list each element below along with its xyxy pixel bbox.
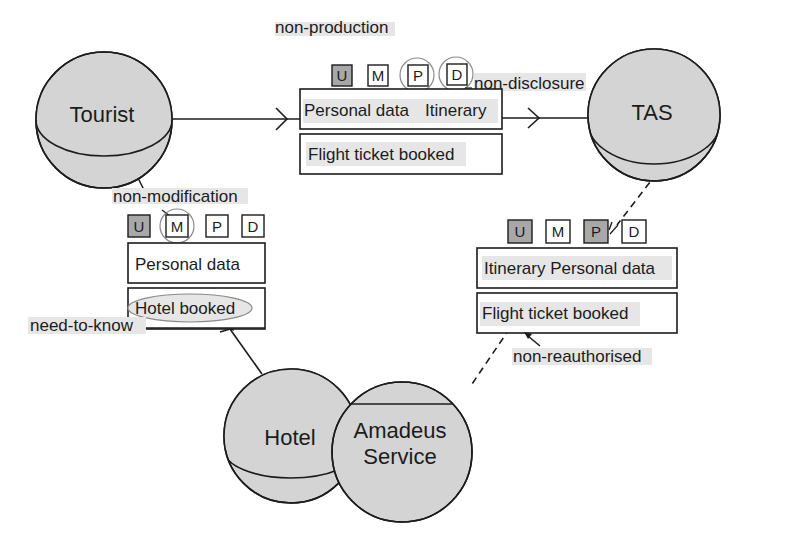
svg-text:U: U <box>134 218 145 235</box>
node-label-amadeus: Amadeus <box>354 418 447 443</box>
badge-u: U <box>332 65 352 86</box>
svg-text:D: D <box>248 218 259 235</box>
svg-text:M: M <box>171 218 184 235</box>
svg-text:P: P <box>212 218 222 235</box>
svg-text:U: U <box>515 223 526 240</box>
svg-text:U: U <box>337 67 348 84</box>
badge-d: D <box>242 215 264 237</box>
row-flight-ticket-booked: Flight ticket booked <box>482 304 628 323</box>
badge-u: U <box>508 220 532 243</box>
badge-p: P <box>206 215 228 237</box>
node-tourist: Tourist <box>30 52 180 188</box>
svg-text:P: P <box>413 67 423 84</box>
badge-m: M <box>368 65 388 86</box>
node-label-tourist: Tourist <box>70 102 135 127</box>
badge-m: M <box>160 209 194 243</box>
message-tourist-hotel: non-modification U M P D Personal data H… <box>28 187 265 335</box>
label-non-modification: non-modification <box>113 187 238 206</box>
node-label-service: Service <box>363 444 436 469</box>
row-itinerary-personal-data: Itinerary Personal data <box>484 259 656 278</box>
row-hotel-booked: Hotel booked <box>135 299 235 318</box>
badge-m: M <box>546 220 570 243</box>
label-need-to-know: need-to-know <box>30 316 134 335</box>
node-tas: TAS <box>580 40 730 181</box>
message-tas-amadeus: U M P D Itinerary Personal data Flight t… <box>477 220 677 366</box>
svg-text:M: M <box>552 223 565 240</box>
row-flight-ticket-booked: Flight ticket booked <box>308 145 454 164</box>
row-personal-data: Personal data <box>304 101 409 120</box>
node-label-tas: TAS <box>631 100 672 125</box>
label-non-reauthorised: non-reauthorised <box>513 347 642 366</box>
badge-u: U <box>128 215 150 237</box>
row-personal-data: Personal data <box>135 255 240 274</box>
node-amadeus-service: Amadeus Service <box>332 382 472 522</box>
node-label-hotel: Hotel <box>264 425 315 450</box>
message-tourist-tas: non-production U M P D non-disclosure Pe… <box>275 18 586 174</box>
svg-text:D: D <box>629 223 640 240</box>
row-itinerary: Itinerary <box>425 101 487 120</box>
badge-p: P <box>584 220 608 243</box>
label-non-production: non-production <box>275 18 388 37</box>
badge-d: D <box>622 220 646 243</box>
svg-text:M: M <box>372 67 385 84</box>
privacy-flow-diagram: Tourist TAS Hotel Amadeus Service non-pr… <box>0 0 787 548</box>
svg-text:P: P <box>591 223 601 240</box>
badge-d: D <box>439 57 473 91</box>
svg-text:D: D <box>452 66 463 83</box>
badge-p: P <box>400 58 434 92</box>
